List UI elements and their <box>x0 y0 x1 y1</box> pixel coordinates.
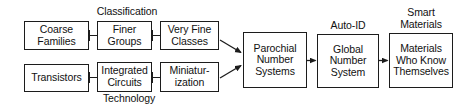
node-finer-groups-label: Finer Groups <box>106 24 144 47</box>
node-very-fine-classes-label: Very Fine Classes <box>166 24 213 47</box>
node-materials-who-know-themselves-label: Materials Who Know Themselves <box>391 43 451 78</box>
connector-transistors-to-integrated-tick-left <box>89 72 90 83</box>
group-label-smart-materials: Smart Materials <box>389 7 453 30</box>
connector-finer-to-veryfine-tick-left <box>152 30 153 41</box>
node-parochial-number-systems[interactable]: Parochial Number Systems <box>243 32 307 88</box>
group-label-technology: Technology <box>88 93 170 105</box>
node-transistors-label: Transistors <box>29 72 83 84</box>
group-label-auto-id: Auto-ID <box>317 20 379 32</box>
connector-integrated-to-miniaturization-tick-left <box>152 72 153 83</box>
node-global-number-system[interactable]: Global Number System <box>317 34 379 88</box>
connector-coarse-to-finer-tick-left <box>89 30 90 41</box>
node-coarse-families[interactable]: Coarse Families <box>24 21 89 50</box>
diagram-canvas: Classification Technology Auto-ID Smart … <box>0 0 471 112</box>
node-coarse-families-label: Coarse Families <box>35 24 77 47</box>
arrow-miniaturization-to-parochial <box>220 66 241 79</box>
node-miniaturization[interactable]: Miniatur- ization <box>160 62 219 92</box>
node-materials-who-know-themselves[interactable]: Materials Who Know Themselves <box>389 33 453 88</box>
node-miniaturization-label: Miniatur- ization <box>168 65 212 88</box>
node-very-fine-classes[interactable]: Very Fine Classes <box>160 21 219 50</box>
node-global-number-system-label: Global Number System <box>328 44 369 79</box>
node-transistors[interactable]: Transistors <box>24 64 89 92</box>
node-finer-groups[interactable]: Finer Groups <box>97 21 152 50</box>
node-parochial-number-systems-label: Parochial Number Systems <box>252 43 299 78</box>
arrow-very-fine-classes-to-parochial <box>220 40 241 53</box>
group-label-classification: Classification <box>86 6 168 18</box>
node-integrated-circuits-label: Integrated Circuits <box>99 65 149 88</box>
node-integrated-circuits[interactable]: Integrated Circuits <box>97 62 152 92</box>
